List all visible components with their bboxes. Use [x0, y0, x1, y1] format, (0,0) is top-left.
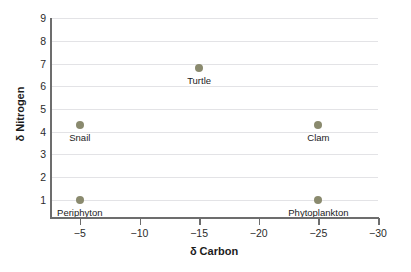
- y-axis-tick-label: 4: [40, 126, 46, 138]
- x-axis-tick-mark: [140, 218, 142, 225]
- x-axis-tick-mark: [318, 218, 320, 225]
- x-axis-tick-mark: [80, 218, 82, 225]
- plot-area: PeriphytonSnailTurtleClamPhytoplankton: [50, 18, 378, 218]
- x-axis-tick-label: −25: [309, 227, 327, 239]
- gridline: [50, 177, 378, 178]
- x-axis-title: δ Carbon: [50, 245, 378, 257]
- gridline: [50, 18, 378, 19]
- y-axis-tick-label: 8: [40, 35, 46, 47]
- x-axis-tick-label: −15: [190, 227, 208, 239]
- y-axis-tick-label: 3: [40, 148, 46, 160]
- gridline: [50, 200, 378, 201]
- data-point-marker[interactable]: [195, 64, 203, 72]
- gridline: [50, 41, 378, 42]
- x-axis-tick-label: −10: [131, 227, 149, 239]
- data-point-marker[interactable]: [76, 121, 84, 129]
- gridline: [50, 109, 378, 110]
- gridline: [50, 154, 378, 155]
- y-axis-title: δ Nitrogen: [14, 54, 26, 174]
- x-axis-tick-label: −5: [74, 227, 86, 239]
- x-axis-spine: [50, 217, 379, 219]
- x-axis-tick-label: −30: [369, 227, 387, 239]
- gridline: [50, 64, 378, 65]
- data-point-marker[interactable]: [314, 121, 322, 129]
- y-axis-tick-label: 5: [40, 103, 46, 115]
- data-point-marker[interactable]: [314, 196, 322, 204]
- y-axis-tick-labels: 123456789: [26, 18, 46, 218]
- x-axis-tick-label: −20: [250, 227, 268, 239]
- data-point-label: Turtle: [187, 75, 211, 86]
- y-axis-tick-label: 2: [40, 171, 46, 183]
- y-axis-tick-label: 9: [40, 12, 46, 24]
- y-axis-tick-label: 6: [40, 80, 46, 92]
- x-axis-tick-mark: [378, 218, 380, 225]
- gridline: [50, 86, 378, 87]
- data-point-label: Clam: [307, 132, 329, 143]
- y-axis-tick-label: 7: [40, 58, 46, 70]
- y-axis-tick-label: 1: [40, 194, 46, 206]
- y-axis-spine: [50, 18, 52, 218]
- data-point-marker[interactable]: [76, 196, 84, 204]
- x-axis-tick-mark: [199, 218, 201, 225]
- x-axis-tick-mark: [259, 218, 261, 225]
- scatter-chart: PeriphytonSnailTurtleClamPhytoplankton 1…: [0, 0, 411, 272]
- data-point-label: Snail: [69, 132, 90, 143]
